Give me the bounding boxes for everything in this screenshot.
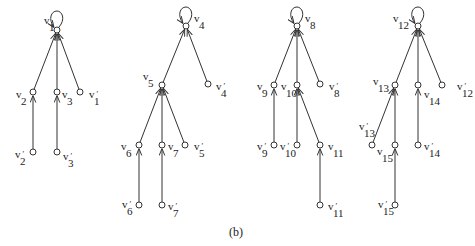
node-v1p	[77, 89, 83, 95]
figure-caption: (b)	[229, 225, 243, 239]
label-v13p: v′13	[359, 120, 376, 139]
label-v7: v7	[168, 140, 179, 159]
label-v7p: v′7	[168, 200, 179, 219]
label-v10p: v′10	[280, 140, 297, 159]
node-v2	[30, 89, 36, 95]
self-loops-layer	[51, 7, 424, 28]
node-v13p	[369, 142, 375, 148]
edge-v13-to-v12	[396, 29, 417, 82]
edge-v6-to-v5	[140, 88, 161, 142]
nodes-layer	[30, 23, 445, 208]
label-v11p: v′11	[328, 200, 344, 219]
node-v3p	[54, 149, 60, 155]
label-v15p: v′15	[378, 198, 395, 217]
self-loop-v4	[180, 7, 192, 24]
node-v6p	[136, 202, 142, 208]
node-v11p	[317, 202, 323, 208]
node-v8	[294, 23, 300, 29]
label-v15: v15	[377, 145, 394, 164]
label-v3p: v′3	[63, 150, 74, 169]
label-v1p: v′1	[89, 88, 100, 107]
node-v5p	[182, 142, 188, 148]
edge-v1p-to-v1	[58, 33, 79, 89]
label-v2: v2	[16, 88, 27, 107]
self-loop-v12	[412, 7, 424, 24]
label-v3: v3	[62, 88, 73, 107]
label-v1: v1	[44, 14, 55, 33]
label-v9p: v′9	[257, 140, 268, 159]
label-v9: v9	[257, 80, 268, 99]
edge-v11-to-v10	[298, 88, 319, 142]
tree-graph: v1v2v3v′1v′2v′3v4v5v′4v6v7v′5v′6v′7v8v9v…	[0, 0, 475, 246]
edge-v2-to-v1	[34, 33, 56, 89]
node-v5	[159, 82, 165, 88]
node-v9p	[271, 142, 277, 148]
node-v12p	[439, 82, 445, 88]
node-v14p	[415, 142, 421, 148]
label-v5p: v′5	[194, 140, 205, 159]
node-v2p	[30, 149, 36, 155]
node-v15	[392, 142, 398, 148]
label-v11: v11	[328, 140, 344, 159]
labels-layer: v1v2v3v′1v′2v′3v4v5v′4v6v7v′5v′6v′7v8v9v…	[15, 12, 473, 219]
node-v4	[183, 23, 189, 29]
node-v3	[54, 89, 60, 95]
label-v14p: v′14	[424, 140, 441, 159]
node-v7	[159, 142, 165, 148]
node-v14	[415, 82, 421, 88]
label-v6p: v′6	[122, 198, 133, 217]
node-v12	[415, 23, 421, 29]
self-loop-v8	[291, 7, 303, 24]
label-v8: v8	[305, 12, 316, 31]
edge-v8p-to-v8	[298, 29, 319, 81]
node-v11	[317, 142, 323, 148]
label-v12p: v′12	[457, 80, 473, 99]
edge-v5p-to-v5	[163, 88, 184, 142]
edge-v9-to-v8	[275, 29, 296, 82]
label-v12: v12	[393, 12, 409, 31]
edges-layer	[33, 29, 441, 202]
edge-v5-to-v4	[163, 29, 185, 82]
diagram-canvas: v1v2v3v′1v′2v′3v4v5v′4v6v7v′5v′6v′7v8v9v…	[0, 0, 475, 246]
label-v2p: v′2	[15, 148, 26, 167]
node-v1	[54, 27, 60, 33]
label-v5: v5	[143, 70, 154, 89]
label-v4p: v′4	[216, 80, 227, 99]
node-v9	[271, 82, 277, 88]
edge-v4p-to-v4	[187, 29, 207, 81]
edge-v13p-to-v13	[373, 88, 394, 142]
label-v8p: v′8	[329, 80, 340, 99]
label-v13: v13	[373, 75, 390, 94]
label-v6: v6	[121, 140, 132, 159]
node-v6	[136, 142, 142, 148]
label-v14: v14	[424, 88, 441, 107]
edge-v12p-to-v12	[419, 29, 441, 82]
node-v8p	[317, 81, 323, 87]
label-v4: v4	[194, 12, 205, 31]
node-v4p	[205, 81, 211, 87]
node-v7p	[159, 202, 165, 208]
node-v13	[392, 82, 398, 88]
